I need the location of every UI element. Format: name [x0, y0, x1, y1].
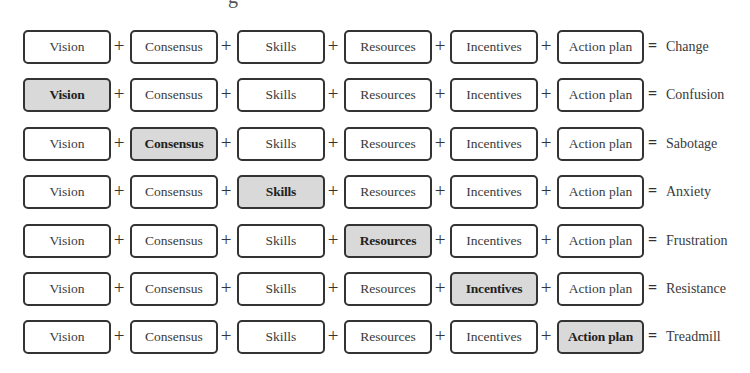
- plus-sign: +: [219, 84, 233, 104]
- component-box-skills-missing: Skills: [237, 175, 325, 209]
- equals-sign: =: [648, 37, 657, 55]
- component-box-action-plan: Action plan: [557, 78, 644, 112]
- component-box-vision: Vision: [23, 175, 111, 209]
- equals-sign: =: [648, 279, 657, 297]
- result-label: Confusion: [666, 86, 724, 104]
- equals-sign: =: [648, 327, 657, 345]
- component-box-skills: Skills: [237, 320, 325, 354]
- plus-sign: +: [112, 326, 126, 346]
- result-label: Resistance: [666, 280, 726, 298]
- component-box-action-plan: Action plan: [557, 224, 644, 258]
- plus-sign: +: [326, 326, 340, 346]
- component-box-consensus-missing: Consensus: [130, 127, 218, 161]
- equals-sign: =: [648, 134, 657, 152]
- equation-row-resistance: Vision + Consensus + Skills + Resources …: [0, 272, 750, 306]
- plus-sign: +: [539, 84, 553, 104]
- component-box-resources: Resources: [344, 175, 432, 209]
- plus-sign: +: [219, 36, 233, 56]
- plus-sign: +: [433, 230, 447, 250]
- component-box-vision: Vision: [23, 127, 111, 161]
- plus-sign: +: [112, 181, 126, 201]
- plus-sign: +: [433, 278, 447, 298]
- component-box-incentives: Incentives: [450, 320, 538, 354]
- result-label: Frustration: [666, 232, 727, 250]
- plus-sign: +: [539, 230, 553, 250]
- plus-sign: +: [219, 326, 233, 346]
- component-box-skills: Skills: [237, 224, 325, 258]
- component-box-resources: Resources: [344, 30, 432, 64]
- plus-sign: +: [539, 326, 553, 346]
- component-box-consensus: Consensus: [130, 320, 218, 354]
- plus-sign: +: [112, 230, 126, 250]
- component-box-resources: Resources: [344, 320, 432, 354]
- component-box-vision-missing: Vision: [23, 78, 111, 112]
- component-box-resources-missing: Resources: [344, 224, 432, 258]
- equals-sign: =: [648, 85, 657, 103]
- component-box-incentives: Incentives: [450, 224, 538, 258]
- component-box-incentives: Incentives: [450, 30, 538, 64]
- plus-sign: +: [219, 278, 233, 298]
- title-fragment: g: [228, 0, 238, 6]
- plus-sign: +: [539, 278, 553, 298]
- plus-sign: +: [539, 181, 553, 201]
- component-box-incentives: Incentives: [450, 175, 538, 209]
- equation-row-change: Vision + Consensus + Skills + Resources …: [0, 30, 750, 64]
- plus-sign: +: [112, 84, 126, 104]
- equation-row-confusion: Vision + Consensus + Skills + Resources …: [0, 78, 750, 112]
- component-box-action-plan: Action plan: [557, 175, 644, 209]
- component-box-skills: Skills: [237, 78, 325, 112]
- equation-row-frustration: Vision + Consensus + Skills + Resources …: [0, 224, 750, 258]
- plus-sign: +: [433, 84, 447, 104]
- component-box-vision: Vision: [23, 30, 111, 64]
- result-label: Change: [666, 38, 709, 56]
- plus-sign: +: [112, 36, 126, 56]
- equation-row-treadmill: Vision + Consensus + Skills + Resources …: [0, 320, 750, 354]
- component-box-consensus: Consensus: [130, 78, 218, 112]
- plus-sign: +: [433, 181, 447, 201]
- component-box-incentives: Incentives: [450, 127, 538, 161]
- result-label: Treadmill: [666, 328, 721, 346]
- result-label: Anxiety: [666, 183, 711, 201]
- equals-sign: =: [648, 231, 657, 249]
- component-box-vision: Vision: [23, 272, 111, 306]
- component-box-consensus: Consensus: [130, 30, 218, 64]
- component-box-action-plan: Action plan: [557, 127, 644, 161]
- component-box-skills: Skills: [237, 272, 325, 306]
- component-box-incentives: Incentives: [450, 78, 538, 112]
- plus-sign: +: [433, 36, 447, 56]
- plus-sign: +: [433, 133, 447, 153]
- component-box-vision: Vision: [23, 224, 111, 258]
- component-box-incentives-missing: Incentives: [450, 272, 538, 306]
- plus-sign: +: [326, 133, 340, 153]
- plus-sign: +: [539, 36, 553, 56]
- plus-sign: +: [219, 230, 233, 250]
- component-box-skills: Skills: [237, 127, 325, 161]
- plus-sign: +: [326, 278, 340, 298]
- equals-sign: =: [648, 182, 657, 200]
- plus-sign: +: [219, 181, 233, 201]
- plus-sign: +: [326, 181, 340, 201]
- component-box-action-plan: Action plan: [557, 272, 644, 306]
- component-box-resources: Resources: [344, 78, 432, 112]
- plus-sign: +: [326, 84, 340, 104]
- equation-row-anxiety: Vision + Consensus + Skills + Resources …: [0, 175, 750, 209]
- component-box-consensus: Consensus: [130, 224, 218, 258]
- plus-sign: +: [112, 278, 126, 298]
- component-box-consensus: Consensus: [130, 272, 218, 306]
- component-box-action-plan: Action plan: [557, 30, 644, 64]
- plus-sign: +: [112, 133, 126, 153]
- component-box-resources: Resources: [344, 272, 432, 306]
- component-box-resources: Resources: [344, 127, 432, 161]
- result-label: Sabotage: [666, 135, 717, 153]
- component-box-consensus: Consensus: [130, 175, 218, 209]
- component-box-action-plan-missing: Action plan: [557, 320, 644, 354]
- component-box-skills: Skills: [237, 30, 325, 64]
- plus-sign: +: [539, 133, 553, 153]
- plus-sign: +: [433, 326, 447, 346]
- plus-sign: +: [326, 230, 340, 250]
- plus-sign: +: [219, 133, 233, 153]
- equation-row-sabotage: Vision + Consensus + Skills + Resources …: [0, 127, 750, 161]
- component-box-vision: Vision: [23, 320, 111, 354]
- plus-sign: +: [326, 36, 340, 56]
